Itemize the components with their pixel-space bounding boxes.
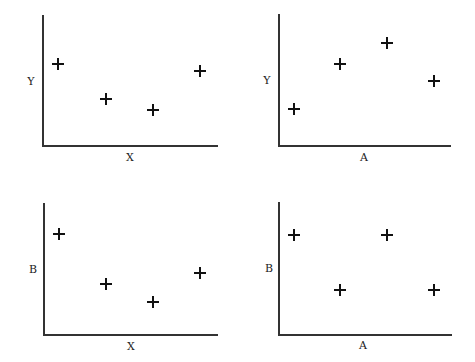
y-axis (278, 202, 280, 336)
data-point-plus-marker (194, 65, 206, 77)
data-point-plus-marker (53, 228, 65, 240)
data-point-plus-marker (334, 284, 346, 296)
data-point-plus-marker (381, 37, 393, 49)
data-point-plus-marker (147, 296, 159, 308)
data-point-plus-marker (381, 229, 393, 241)
data-point-plus-marker (194, 267, 206, 279)
x-axis-label: X (126, 152, 134, 163)
data-point-plus-marker (100, 93, 112, 105)
y-axis-label: B (265, 263, 273, 274)
y-axis-label: Y (263, 75, 270, 86)
y-axis (278, 14, 280, 147)
x-axis-label: A (360, 152, 368, 163)
y-axis (43, 203, 45, 336)
data-point-plus-marker (52, 58, 64, 70)
data-point-plus-marker (288, 103, 300, 115)
data-point-plus-marker (100, 278, 112, 290)
data-point-plus-marker (428, 75, 440, 87)
x-axis (42, 145, 218, 147)
y-axis-label: Y (27, 76, 34, 87)
x-axis (278, 334, 452, 336)
data-point-plus-marker (147, 104, 159, 116)
x-axis-label: X (127, 341, 135, 352)
x-axis (278, 145, 451, 147)
y-axis-label: B (29, 264, 37, 275)
data-point-plus-marker (334, 58, 346, 70)
data-point-plus-marker (288, 229, 300, 241)
x-axis-label: A (359, 340, 367, 351)
y-axis (42, 15, 44, 147)
x-axis (43, 334, 218, 336)
data-point-plus-marker (428, 284, 440, 296)
